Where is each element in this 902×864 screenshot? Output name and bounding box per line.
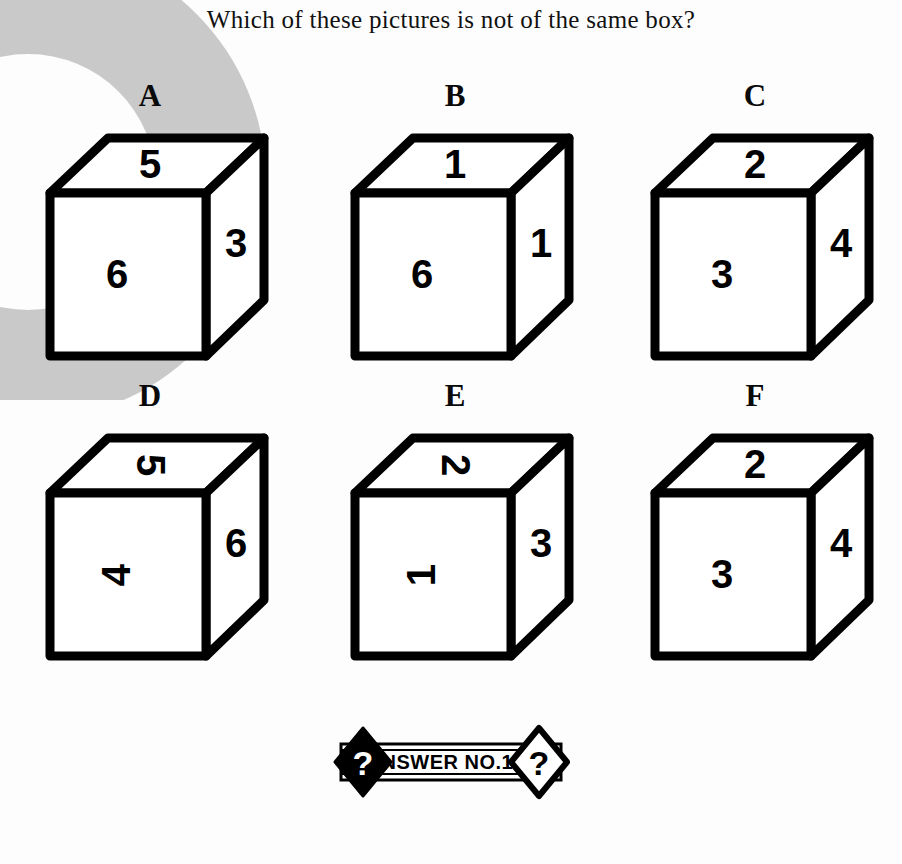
cube-label-a: A <box>0 78 300 114</box>
cube-d-front-digit: 4 <box>94 563 138 586</box>
cube-label-e: E <box>305 378 605 414</box>
cube-e-right-digit: 3 <box>530 521 552 565</box>
cube-option-a[interactable]: A 5 6 3 <box>0 78 300 378</box>
cube-f-top-digit: 2 <box>744 442 766 486</box>
cube-option-d[interactable]: D 5 4 6 <box>0 378 300 678</box>
cube-b-right-digit: 1 <box>530 221 552 265</box>
cube-figure-c: 2 3 4 <box>605 120 902 370</box>
cube-option-f[interactable]: F 2 3 4 <box>605 378 902 678</box>
cube-figure-a: 5 6 3 <box>0 120 300 370</box>
page-title: Which of these pictures is not of the sa… <box>0 6 902 34</box>
cube-b-front-digit: 6 <box>411 252 433 296</box>
cube-figure-e: 2 1 3 <box>305 420 605 670</box>
cube-label-d: D <box>0 378 300 414</box>
cube-label-c: C <box>605 78 902 114</box>
cube-f-front-digit: 3 <box>711 552 733 596</box>
cube-b-top-digit: 1 <box>444 142 466 186</box>
cube-label-b: B <box>305 78 605 114</box>
cube-c-front-digit: 3 <box>711 252 733 296</box>
cube-option-e[interactable]: E 2 1 3 <box>305 378 605 678</box>
left-question-mark-icon: ? <box>353 744 374 782</box>
cube-figure-f: 2 3 4 <box>605 420 902 670</box>
cube-e-front-digit: 1 <box>399 564 443 586</box>
cube-f-right-digit: 4 <box>830 521 853 565</box>
cube-figure-b: 1 6 1 <box>305 120 605 370</box>
cube-d-right-digit: 6 <box>225 521 247 565</box>
cube-e-top-digit: 2 <box>434 454 478 476</box>
cube-grid: A 5 6 3 B 1 6 1 C <box>0 0 902 700</box>
cube-c-top-digit: 2 <box>744 142 766 186</box>
cube-a-front-digit: 6 <box>106 252 128 296</box>
cube-a-right-digit: 3 <box>225 221 247 265</box>
cube-figure-d: 5 4 6 <box>0 420 300 670</box>
cube-label-f: F <box>605 378 902 414</box>
answer-banner[interactable]: ANSWER NO.114 ? ? <box>301 722 601 802</box>
cube-d-top-digit: 5 <box>129 454 173 476</box>
cube-option-c[interactable]: C 2 3 4 <box>605 78 902 378</box>
cube-a-top-digit: 5 <box>139 142 161 186</box>
right-question-mark-icon: ? <box>529 744 550 782</box>
cube-c-right-digit: 4 <box>830 221 853 265</box>
cube-option-b[interactable]: B 1 6 1 <box>305 78 605 378</box>
